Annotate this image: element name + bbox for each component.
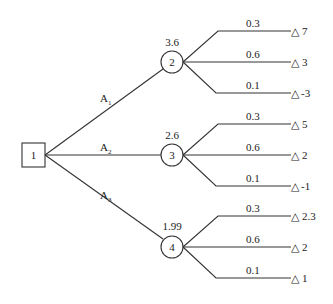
decision-node-label: 1 bbox=[31, 149, 37, 161]
branch-edge bbox=[183, 155, 291, 186]
terminal-triangle-icon: △ bbox=[291, 25, 300, 37]
terminal-triangle-icon: △ bbox=[291, 87, 300, 99]
alt-letter: A bbox=[100, 92, 108, 104]
chance-node-label: 3 bbox=[169, 149, 175, 161]
payoff-value: 2 bbox=[302, 149, 308, 161]
expected-value-label: 1.99 bbox=[162, 220, 182, 232]
alt-subscript: 2 bbox=[108, 148, 112, 156]
branch-edge bbox=[183, 216, 291, 247]
terminal-triangle-icon: △ bbox=[291, 56, 300, 68]
chance-node-label: 4 bbox=[169, 241, 175, 253]
expected-value-label: 3.6 bbox=[165, 36, 179, 48]
payoff-value: 2 bbox=[302, 241, 308, 253]
alt-letter: A bbox=[100, 141, 108, 153]
payoff-value: 5 bbox=[302, 118, 308, 130]
terminal-node: △ 2 bbox=[291, 149, 308, 161]
terminal-triangle-icon: △ bbox=[291, 118, 300, 130]
branch-edge bbox=[183, 124, 291, 155]
chance-node-label: 2 bbox=[169, 56, 175, 68]
branch-probability: 0.1 bbox=[246, 172, 260, 184]
terminal-triangle-icon: △ bbox=[291, 272, 300, 284]
branch-probability: 0.3 bbox=[246, 110, 260, 122]
svg-text:A3: A3 bbox=[100, 189, 112, 204]
payoff-value: 2.3 bbox=[302, 210, 316, 222]
branch-probability: 0.3 bbox=[246, 202, 260, 214]
alternative-label-a2: A2 bbox=[100, 141, 112, 156]
branch-probability: 0.1 bbox=[246, 79, 260, 91]
branch-probability: 0.6 bbox=[246, 233, 260, 245]
branch-probability: 0.6 bbox=[246, 141, 260, 153]
payoff-value: 3 bbox=[302, 56, 308, 68]
branch-edge bbox=[183, 247, 291, 278]
branch-edge bbox=[183, 62, 291, 93]
svg-text:A2: A2 bbox=[100, 141, 112, 156]
terminal-node: △ 5 bbox=[291, 118, 308, 130]
branch-edge bbox=[183, 31, 291, 62]
branch-probability: 0.3 bbox=[246, 17, 260, 29]
expected-value-label: 2.6 bbox=[165, 129, 179, 141]
branch-probability: 0.1 bbox=[246, 264, 260, 276]
terminal-triangle-icon: △ bbox=[291, 149, 300, 161]
terminal-node: △ -1 bbox=[291, 180, 310, 192]
payoff-value: 1 bbox=[302, 272, 308, 284]
alternative-label-a3: A3 bbox=[100, 189, 112, 204]
chance-node-4: 1.99 4 0.3 0.6 0.1 △ 2.3 △ 2 △ 1 bbox=[161, 202, 316, 284]
chance-node-3: 2.6 3 0.3 0.6 0.1 △ 5 △ 2 △ -1 bbox=[161, 110, 310, 192]
terminal-node: △ 3 bbox=[291, 56, 308, 68]
terminal-node: △ -3 bbox=[291, 87, 311, 99]
payoff-value: -1 bbox=[301, 180, 310, 192]
terminal-node: △ 2.3 bbox=[291, 210, 316, 222]
terminal-node: △ 2 bbox=[291, 241, 308, 253]
payoff-value: 7 bbox=[302, 25, 308, 37]
branch-probability: 0.6 bbox=[246, 48, 260, 60]
alternative-label-a1: A1 bbox=[100, 92, 112, 107]
terminal-triangle-icon: △ bbox=[291, 210, 300, 222]
alt-letter: A bbox=[100, 189, 108, 201]
terminal-triangle-icon: △ bbox=[291, 180, 300, 192]
terminal-node: △ 7 bbox=[291, 25, 308, 37]
svg-text:A1: A1 bbox=[100, 92, 112, 107]
decision-tree-diagram: 1 A1 A2 A3 3.6 2 0.3 0.6 0.1 △ 7 △ 3 △ -… bbox=[0, 0, 333, 304]
alt-subscript: 3 bbox=[108, 196, 112, 204]
chance-node-2: 3.6 2 0.3 0.6 0.1 △ 7 △ 3 △ -3 bbox=[161, 17, 311, 99]
terminal-node: △ 1 bbox=[291, 272, 308, 284]
payoff-value: -3 bbox=[301, 87, 311, 99]
terminal-triangle-icon: △ bbox=[291, 241, 300, 253]
decision-node: 1 bbox=[22, 143, 45, 167]
alt-subscript: 1 bbox=[108, 99, 112, 107]
